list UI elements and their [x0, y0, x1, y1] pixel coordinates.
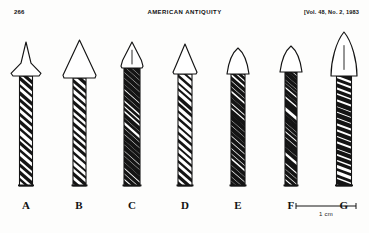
specimen-f: [278, 46, 304, 189]
specimen-d: [171, 44, 199, 189]
projectile-point: [11, 42, 41, 76]
specimen-label-c: C: [122, 199, 142, 211]
shaft: [18, 63, 34, 206]
projectile-point: [173, 44, 197, 74]
journal-page: 266 AMERICAN ANTIQUITY [Vol. 48, No. 2, …: [0, 0, 369, 233]
specimen-g: [329, 32, 359, 189]
specimen-label-a: A: [16, 199, 36, 211]
specimen-label-d: D: [175, 199, 195, 211]
specimen-e: [225, 48, 251, 189]
specimen-a: [9, 42, 43, 189]
shaft: [230, 61, 247, 214]
projectile-point: [280, 46, 302, 72]
specimen-label-e: E: [228, 199, 248, 211]
shaft: [177, 59, 194, 210]
shaft: [335, 61, 353, 205]
specimen-label-g: G: [334, 199, 354, 211]
projectile-point: [121, 42, 143, 68]
figure-plate: 1 cm A: [0, 26, 369, 233]
specimen-c: [119, 42, 145, 189]
projectile-point: [331, 32, 357, 76]
shaft: [71, 65, 87, 209]
shaft: [123, 52, 142, 214]
specimen-b: [61, 40, 98, 189]
specimen-label-b: B: [69, 199, 89, 211]
projectile-point: [63, 40, 96, 78]
volume-note: [Vol. 48, No. 2, 1983: [304, 9, 359, 15]
shaft: [284, 62, 299, 206]
projectile-point: [227, 48, 249, 74]
running-head: 266 AMERICAN ANTIQUITY [Vol. 48, No. 2, …: [0, 0, 369, 26]
specimen-label-f: F: [281, 199, 301, 211]
scale-bar-label: 1 cm: [295, 211, 357, 217]
